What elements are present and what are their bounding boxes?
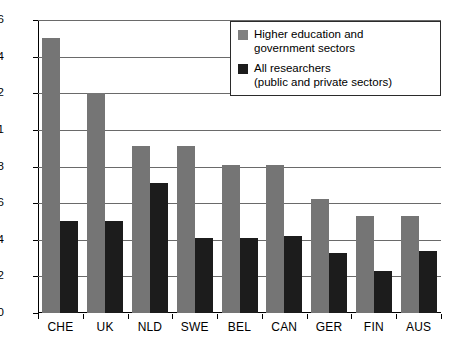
x-tick-label-ger: GER xyxy=(316,320,343,334)
legend-label-series-b: All researchers (public and private sect… xyxy=(254,62,392,89)
y-tick-label: 0.4 xyxy=(0,234,4,246)
x-tick-label-che: CHE xyxy=(47,320,73,334)
x-tick-label-can: CAN xyxy=(271,320,297,334)
bar-nld-series-a xyxy=(132,146,150,313)
bar-bel-series-b xyxy=(240,238,258,313)
x-tick-mark xyxy=(83,314,84,319)
y-tick-label: 1.4 xyxy=(0,51,4,63)
x-tick-mark xyxy=(441,314,442,319)
bar-ger-series-b xyxy=(329,253,347,313)
bar-uk-series-b xyxy=(105,221,123,313)
bar-che-series-a xyxy=(42,38,60,313)
bar-swe-series-a xyxy=(177,146,195,313)
y-tick-label: 1.2 xyxy=(0,88,4,100)
legend-label-series-a: Higher education and government sectors xyxy=(254,28,363,55)
x-tick-mark xyxy=(217,314,218,319)
legend-swatch-icon-series-b xyxy=(238,64,248,74)
chart-legend: Higher education and government sectors … xyxy=(230,21,441,96)
x-tick-mark xyxy=(262,314,263,319)
x-tick-label-fin: FIN xyxy=(364,320,384,334)
bar-uk-series-a xyxy=(87,93,105,313)
x-tick-label-uk: UK xyxy=(97,320,114,334)
x-tick-mark xyxy=(307,314,308,319)
legend-swatch-icon-series-a xyxy=(238,30,248,40)
bar-bel-series-a xyxy=(222,165,240,313)
x-tick-mark xyxy=(128,314,129,319)
y-tick-label: 0.6 xyxy=(0,197,4,209)
legend-item-all-researchers[interactable]: All researchers (public and private sect… xyxy=(238,62,432,89)
bar-can-series-a xyxy=(266,165,284,313)
x-tick-label-aus: AUS xyxy=(406,320,431,334)
bar-can-series-b xyxy=(284,236,302,313)
bar-fin-series-b xyxy=(374,271,392,313)
bar-che-series-b xyxy=(60,221,78,313)
x-tick-label-nld: NLD xyxy=(138,320,163,334)
bar-fin-series-a xyxy=(356,216,374,313)
x-tick-mark xyxy=(38,314,39,319)
y-tick-label: 1.6 xyxy=(0,14,4,26)
bar-aus-series-a xyxy=(401,216,419,313)
bar-nld-series-b xyxy=(150,183,168,313)
legend-item-higher-education[interactable]: Higher education and government sectors xyxy=(238,28,432,55)
y-tick-label: 1 xyxy=(0,124,4,136)
y-tick-label: 0.8 xyxy=(0,161,4,173)
x-tick-mark xyxy=(351,314,352,319)
bar-aus-series-b xyxy=(419,251,437,313)
bar-swe-series-b xyxy=(195,238,213,313)
y-tick-label: 0 xyxy=(0,307,4,319)
y-tick-label: 0.2 xyxy=(0,271,4,283)
x-tick-mark xyxy=(172,314,173,319)
bar-ger-series-a xyxy=(311,199,329,313)
bar-chart: 00.20.40.60.811.21.41.6 CHEUKNLDSWEBELCA… xyxy=(0,0,451,351)
x-tick-mark xyxy=(396,314,397,319)
x-tick-label-swe: SWE xyxy=(181,320,209,334)
x-tick-label-bel: BEL xyxy=(228,320,251,334)
